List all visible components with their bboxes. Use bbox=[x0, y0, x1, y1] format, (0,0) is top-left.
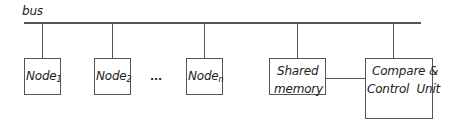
shared-memory-line2: memory bbox=[274, 82, 323, 96]
node-1-subscript: 1 bbox=[57, 75, 62, 84]
node-n-text: Node bbox=[188, 69, 219, 83]
compare-control-line2: Control Unit bbox=[367, 82, 440, 96]
bus-label: bus bbox=[22, 4, 43, 18]
compare-control-line1: Compare & bbox=[372, 64, 438, 78]
node-1-text: Node bbox=[26, 69, 57, 83]
node-2-connector bbox=[112, 23, 113, 58]
compare-control-unit-box: Compare & Control Unit bbox=[365, 58, 433, 119]
node-1-box: Node1 bbox=[24, 58, 61, 95]
compare-control-connector bbox=[393, 23, 394, 58]
ellipsis: ... bbox=[150, 70, 162, 83]
memory-to-control-link bbox=[325, 78, 365, 79]
node-n-subscript: n bbox=[219, 75, 224, 84]
node-n-box: Noden bbox=[186, 58, 223, 95]
bus-line bbox=[24, 22, 421, 24]
node-2-subscript: 2 bbox=[127, 75, 132, 84]
node-n-connector bbox=[204, 23, 205, 58]
node-1-label: Node1 bbox=[26, 69, 61, 84]
node-2-label: Node2 bbox=[96, 69, 131, 84]
node-n-label: Noden bbox=[188, 69, 223, 84]
shared-memory-connector bbox=[297, 23, 298, 58]
shared-memory-line1: Shared bbox=[277, 64, 318, 78]
node-1-connector bbox=[42, 23, 43, 58]
shared-memory-box: Shared memory bbox=[269, 58, 326, 95]
node-2-text: Node bbox=[96, 69, 127, 83]
node-2-box: Node2 bbox=[94, 58, 131, 95]
